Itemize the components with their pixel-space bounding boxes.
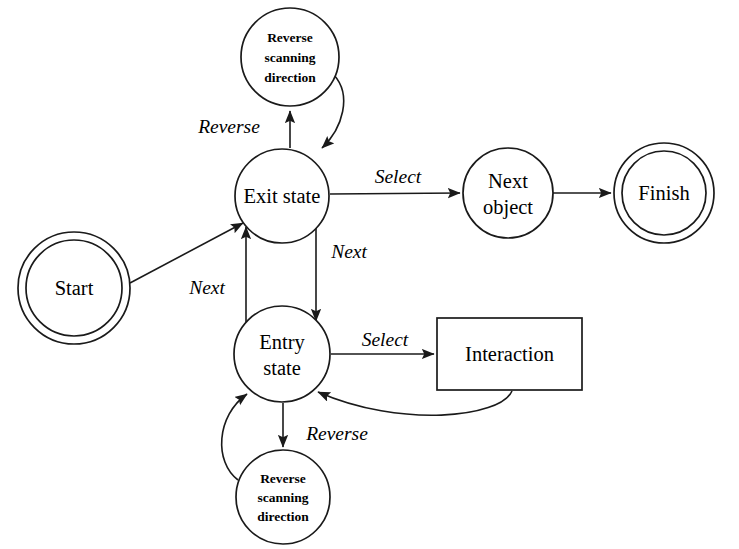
node-entry-state[interactable]: Entry state: [234, 306, 330, 402]
reverse-scanning-bottom-label-line1: Reverse: [260, 471, 306, 486]
node-start[interactable]: Start: [18, 232, 130, 344]
edge-label-reverse-bottom: Reverse: [305, 423, 368, 444]
reverse-scanning-top-label-line3: direction: [264, 70, 316, 85]
start-label: Start: [55, 277, 94, 299]
node-interaction[interactable]: Interaction: [437, 318, 582, 390]
diagram-svg: Reverse Select Next Next Select Reverse …: [0, 0, 739, 549]
node-exit-state[interactable]: Exit state: [235, 149, 329, 243]
reverse-scanning-bottom-label-line3: direction: [257, 509, 309, 524]
exit-state-label: Exit state: [244, 185, 321, 207]
edge-label-select-bottom: Select: [362, 329, 409, 350]
edge-exit-state-to-next-object: [330, 193, 460, 194]
entry-state-label-line2: state: [263, 357, 301, 379]
node-finish[interactable]: Finish: [614, 143, 714, 243]
edge-label-reverse-top: Reverse: [197, 116, 260, 137]
edge-label-select-top: Select: [375, 166, 422, 187]
reverse-scanning-top-label-line2: scanning: [264, 50, 315, 65]
finish-label: Finish: [638, 182, 689, 204]
edge-start-to-exit-state: [130, 223, 243, 283]
node-next-object[interactable]: Next object: [463, 148, 553, 238]
entry-state-circle: [234, 306, 330, 402]
edge-label-next-right: Next: [330, 241, 367, 262]
next-object-label-line2: object: [483, 196, 533, 219]
next-object-label-line1: Next: [488, 170, 528, 192]
state-diagram-canvas: Reverse Select Next Next Select Reverse …: [0, 0, 739, 549]
edge-interaction-to-entry-state: [318, 391, 512, 415]
interaction-label: Interaction: [465, 343, 554, 365]
node-reverse-scanning-direction-top[interactable]: Reverse scanning direction: [241, 8, 339, 106]
edge-label-next-left: Next: [188, 277, 225, 298]
reverse-scanning-top-label-line1: Reverse: [267, 30, 313, 45]
reverse-scanning-bottom-label-line2: scanning: [257, 490, 308, 505]
node-reverse-scanning-direction-bottom[interactable]: Reverse scanning direction: [236, 450, 330, 544]
entry-state-label-line1: Entry: [259, 331, 305, 354]
edge-reverse-scanning-bottom-to-entry-state: [222, 394, 247, 480]
next-object-circle: [463, 148, 553, 238]
